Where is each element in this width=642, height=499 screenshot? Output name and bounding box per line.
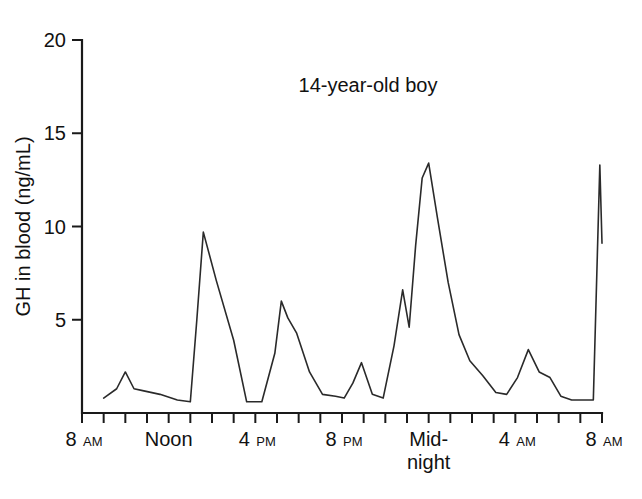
x-axis-label-8: 8AM [65, 428, 102, 450]
x-tick-label-text: Noon [145, 428, 193, 450]
x-tick-label-meridiem: AM [83, 434, 103, 449]
chart-title-group: 14-year-old boy [299, 74, 438, 96]
x-tick-label-text: 8 [585, 428, 596, 450]
y-axis-title: GH in blood (ng/mL) [12, 136, 34, 316]
x-axis-label-12: Noon [145, 428, 193, 450]
x-axis-label-24: Mid-night [407, 428, 451, 473]
x-axis-label-16: 4PM [239, 428, 276, 450]
chart-title: 14-year-old boy [299, 74, 438, 96]
x-axis-label-32: 8AM [585, 428, 622, 450]
chart-container: 5101520 8AMNoon4PM8PMMid-night4AM8AM 14-… [0, 0, 642, 499]
x-axis-label-28: 4AM [499, 428, 536, 450]
y-tick-label-10: 10 [44, 216, 66, 238]
y-tick-label-20: 20 [44, 29, 66, 51]
x-axis-ticks [82, 413, 602, 423]
data-series-group [104, 163, 602, 402]
x-axis-tick-labels: 8AMNoon4PM8PMMid-night4AM8AM [65, 428, 622, 473]
x-tick-label-line2: night [407, 451, 451, 473]
x-tick-label-meridiem: AM [516, 434, 536, 449]
x-tick-label-meridiem: AM [603, 434, 623, 449]
x-tick-label-meridiem: PM [343, 434, 363, 449]
y-tick-label-15: 15 [44, 122, 66, 144]
data-line-0 [104, 163, 602, 402]
x-tick-label-text: 4 [239, 428, 250, 450]
y-axis-title-group: GH in blood (ng/mL) [12, 136, 34, 316]
x-tick-label-text: 8 [65, 428, 76, 450]
x-tick-label-text: Mid- [409, 428, 448, 450]
y-axis-ticks [72, 40, 82, 320]
x-tick-label-meridiem: PM [256, 434, 276, 449]
y-tick-label-5: 5 [55, 309, 66, 331]
y-axis-tick-labels: 5101520 [44, 29, 66, 331]
gh-blood-line-chart: 5101520 8AMNoon4PM8PMMid-night4AM8AM 14-… [0, 0, 642, 499]
x-axis-label-20: 8PM [325, 428, 362, 450]
x-tick-label-text: 4 [499, 428, 510, 450]
x-tick-label-text: 8 [325, 428, 336, 450]
